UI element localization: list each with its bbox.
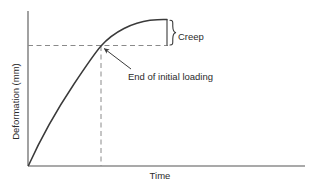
x-axis-label: Time [125,170,195,181]
creep-annotation-label: Creep [178,31,204,42]
end-of-initial-loading-leader-line [104,49,131,69]
creep-curve-figure: Deformation (mm) Time Creep End of initi… [0,0,316,189]
end-of-initial-loading-annotation-label: End of initial loading [128,71,213,82]
chart-canvas [0,0,316,189]
deformation-curve [29,20,168,166]
y-axis-label: Deformation (mm) [10,56,21,148]
creep-brace-icon [170,20,176,45]
